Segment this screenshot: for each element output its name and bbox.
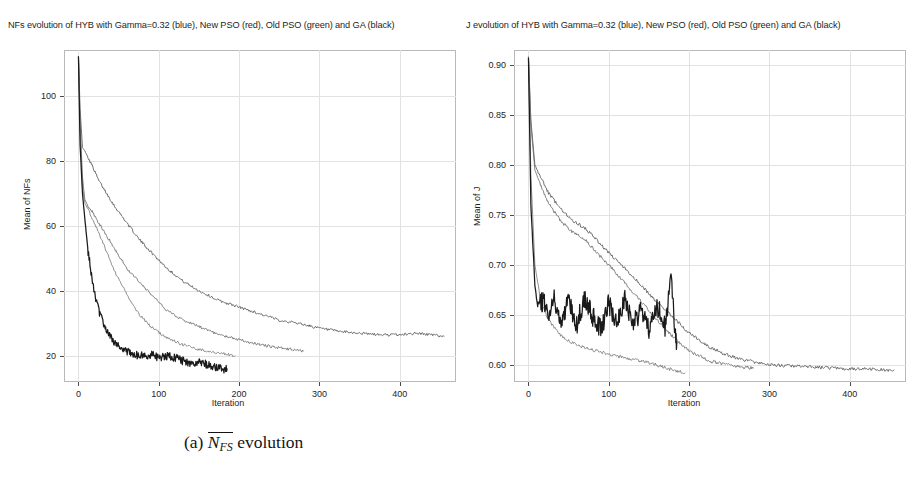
caption-a-symbol: N — [208, 432, 220, 452]
panel-a-curves — [64, 50, 456, 382]
y-tickmark — [60, 356, 64, 357]
x-tickmark — [850, 382, 851, 386]
y-tickmark — [60, 96, 64, 97]
x-tickmark — [609, 382, 610, 386]
panel-b-curves — [514, 50, 906, 382]
y-tick-label: 20 — [46, 351, 56, 361]
panel-b-ylabel: Mean of J — [472, 186, 482, 226]
x-tickmark — [239, 382, 240, 386]
y-tick-label: 0.75 — [488, 210, 506, 220]
y-tick-label: 100 — [41, 91, 56, 101]
x-tickmark — [319, 382, 320, 386]
series-line — [78, 57, 443, 337]
x-tick-label: 100 — [151, 389, 166, 399]
panel-a-axes: 204060801000100200300400 — [64, 50, 456, 382]
y-tickmark — [60, 161, 64, 162]
y-tickmark — [60, 291, 64, 292]
y-tickmark — [510, 65, 514, 66]
y-tick-label: 60 — [46, 221, 56, 231]
caption-a-symbol-overline: NFS — [208, 432, 233, 453]
panel-a-ylabel: Mean of NFs — [22, 178, 32, 230]
panel-b-xlabel: Iteration — [668, 398, 701, 408]
panel-a-xlabel: Iteration — [212, 398, 245, 408]
y-tick-label: 0.90 — [488, 60, 506, 70]
panel-nfs-evolution: NFs evolution of HYB with Gamma=0.32 (bl… — [0, 0, 456, 425]
panel-b-axes: 0.600.650.700.750.800.850.90010020030040… — [514, 50, 906, 382]
y-tickmark — [60, 226, 64, 227]
x-tickmark — [689, 382, 690, 386]
x-tickmark — [769, 382, 770, 386]
y-tick-label: 0.85 — [488, 110, 506, 120]
x-tickmark — [78, 382, 79, 386]
y-tick-label: 0.70 — [488, 260, 506, 270]
x-tick-label: 0 — [526, 389, 531, 399]
y-tickmark — [510, 115, 514, 116]
x-tick-label: 100 — [601, 389, 616, 399]
x-tick-label: 300 — [762, 389, 777, 399]
y-tick-label: 0.60 — [488, 360, 506, 370]
x-tickmark — [400, 382, 401, 386]
x-tickmark — [159, 382, 160, 386]
x-tickmark — [528, 382, 529, 386]
y-tickmark — [510, 365, 514, 366]
y-tick-label: 40 — [46, 286, 56, 296]
series-line — [78, 57, 303, 352]
y-tick-label: 80 — [46, 156, 56, 166]
y-tick-label: 0.65 — [488, 310, 506, 320]
y-tickmark — [510, 215, 514, 216]
y-tick-label: 0.80 — [488, 160, 506, 170]
caption-a: (a) NFS evolution — [184, 432, 303, 453]
figure-container: NFs evolution of HYB with Gamma=0.32 (bl… — [0, 0, 912, 502]
panel-a-title: NFs evolution of HYB with Gamma=0.32 (bl… — [8, 20, 394, 30]
y-tickmark — [510, 315, 514, 316]
panel-j-evolution: J evolution of HYB with Gamma=0.32 (blue… — [456, 0, 912, 425]
x-tick-label: 0 — [76, 389, 81, 399]
panel-b-title: J evolution of HYB with Gamma=0.32 (blue… — [466, 20, 840, 30]
x-tick-label: 400 — [842, 389, 857, 399]
series-line — [528, 57, 893, 371]
series-line — [528, 57, 685, 373]
caption-a-text: evolution — [237, 432, 303, 452]
x-tick-label: 300 — [312, 389, 327, 399]
caption-a-index: (a) — [184, 432, 203, 452]
x-tick-label: 400 — [392, 389, 407, 399]
series-line — [78, 57, 227, 373]
series-line — [528, 58, 677, 349]
y-tickmark — [510, 165, 514, 166]
y-tickmark — [510, 265, 514, 266]
caption-a-subscript: FS — [220, 440, 233, 454]
series-line — [78, 57, 235, 357]
